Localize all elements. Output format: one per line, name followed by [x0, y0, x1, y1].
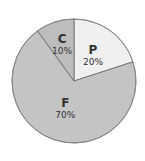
slice-label-f-value: 70%	[55, 110, 75, 120]
slice-label-c-name: C	[58, 32, 67, 46]
slice-label-f-name: F	[61, 96, 69, 110]
pie-chart: P 20% F 70% C 10%	[0, 0, 145, 161]
pie-slices	[12, 19, 136, 143]
slice-label-c-value: 10%	[52, 46, 72, 56]
slice-label-p-name: P	[89, 43, 98, 57]
slice-label-p-value: 20%	[83, 57, 103, 67]
